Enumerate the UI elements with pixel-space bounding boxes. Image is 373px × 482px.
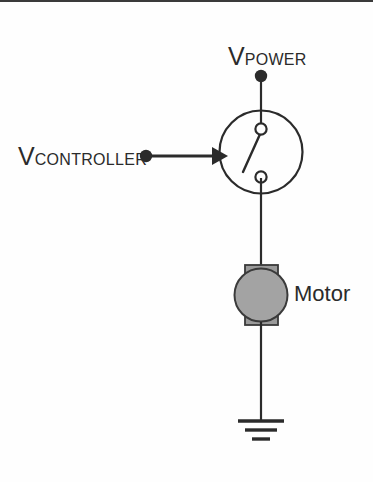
circuit-diagram-canvas: VPOWER VCONTROLLER Motor	[0, 0, 373, 482]
label-v-controller-symbol: V	[18, 142, 35, 170]
switch-lever	[243, 132, 261, 172]
label-v-power-subscript: POWER	[245, 51, 307, 68]
label-v-power-symbol: V	[228, 42, 245, 70]
motor-body	[235, 269, 288, 322]
label-v-power: VPOWER	[228, 44, 307, 69]
power-terminal-dot	[255, 70, 267, 82]
label-motor: Motor	[294, 283, 350, 305]
switch-terminal-upper	[255, 123, 266, 134]
schematic-drawing	[0, 0, 373, 482]
label-v-controller: VCONTROLLER	[18, 144, 147, 169]
label-v-controller-subscript: CONTROLLER	[35, 151, 147, 168]
